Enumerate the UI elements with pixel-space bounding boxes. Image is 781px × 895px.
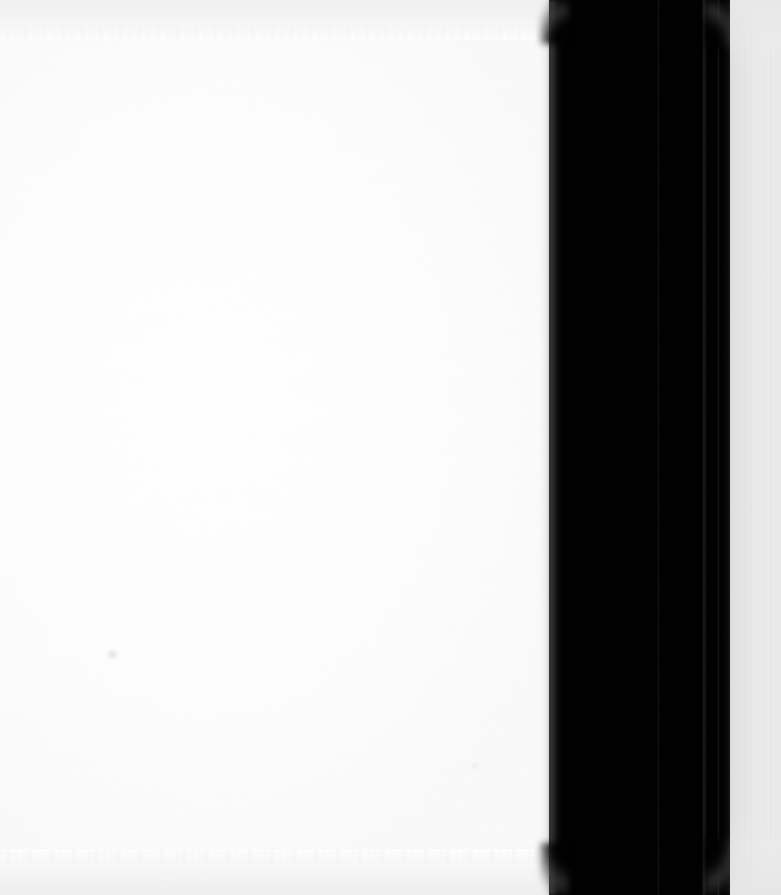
paper-speck-icon <box>106 649 119 660</box>
scanned-page-canvas: Blank scanned page with dark book-gutter… <box>0 0 781 895</box>
gutter-seam-outer <box>717 0 720 895</box>
gutter-corner-top-left-blur <box>540 0 568 44</box>
gutter-corner-bottom-left-blur <box>540 843 568 895</box>
paper-sheet <box>0 0 552 895</box>
gutter-edge-feather-left <box>540 0 562 895</box>
paper-speck-secondary-icon <box>470 762 479 770</box>
gutter-seam-inner <box>657 0 660 895</box>
gutter-seam-main <box>702 0 707 895</box>
paper-top-edge-ragged <box>0 26 552 40</box>
right-strip-streak-texture <box>730 0 781 895</box>
paper-bottom-edge-ragged <box>0 849 552 863</box>
paper-grain-texture <box>0 0 552 895</box>
right-strip-bottom-fade <box>730 815 781 895</box>
right-strip-top-fade <box>730 0 781 70</box>
